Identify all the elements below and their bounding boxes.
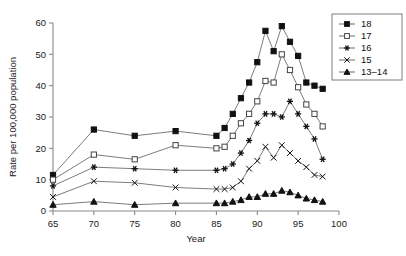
marker-open-square (230, 133, 235, 138)
legend-item-label: 17 (361, 30, 372, 41)
marker-open-square (238, 121, 243, 126)
legend-item-label: 16 (361, 42, 372, 53)
marker-filled-square (279, 24, 284, 29)
line-chart: 010203040506065707580859095100YearRate p… (0, 0, 406, 256)
marker-open-square (173, 143, 178, 148)
marker-filled-square (230, 111, 235, 116)
x-axis-tick-label: 90 (252, 218, 263, 229)
marker-open-square (304, 102, 309, 107)
marker-filled-square (255, 60, 260, 65)
y-axis-tick-label: 0 (41, 205, 46, 216)
legend: 1817161513–14 (332, 14, 402, 80)
chart-container: 010203040506065707580859095100YearRate p… (0, 0, 406, 256)
marker-x (295, 158, 301, 164)
marker-open-square (255, 99, 260, 104)
legend-item-label: 18 (361, 18, 372, 29)
marker-filled-triangle (295, 192, 301, 198)
marker-filled-square (287, 39, 292, 44)
marker-filled-square (132, 133, 137, 138)
marker-filled-triangle (279, 187, 285, 193)
marker-x (263, 144, 269, 150)
marker-open-square (312, 111, 317, 116)
legend-item-label: 15 (361, 54, 372, 65)
marker-open-square (287, 67, 292, 72)
marker-x (279, 142, 285, 148)
y-axis-tick-label: 60 (35, 17, 46, 28)
marker-filled-square (320, 86, 325, 91)
marker-open-square (222, 144, 227, 149)
marker-filled-triangle (238, 197, 244, 203)
marker-x (287, 150, 293, 156)
y-axis-tick-label: 10 (35, 174, 46, 185)
marker-x (254, 158, 260, 164)
y-axis-tick-label: 20 (35, 143, 46, 154)
marker-x (246, 166, 252, 172)
marker-open-square (132, 157, 137, 162)
y-axis-tick-label: 50 (35, 49, 46, 60)
series-16 (50, 99, 326, 189)
marker-open-square (320, 124, 325, 129)
marker-filled-square (91, 127, 96, 132)
marker-filled-triangle (91, 198, 97, 204)
marker-filled-square (312, 83, 317, 88)
marker-filled-square (238, 96, 243, 101)
marker-x (238, 178, 244, 184)
marker-filled-triangle (303, 195, 309, 201)
marker-open-square (247, 111, 252, 116)
marker-open-square (263, 78, 268, 83)
y-axis-tick-label: 40 (35, 80, 46, 91)
marker-x (303, 164, 309, 170)
marker-filled-square (173, 129, 178, 134)
x-axis-tick-label: 75 (129, 218, 140, 229)
series-13-14 (50, 187, 326, 207)
marker-filled-square (345, 22, 350, 27)
x-axis-tick-label: 65 (48, 218, 59, 229)
marker-filled-square (247, 80, 252, 85)
marker-filled-square (271, 49, 276, 54)
x-axis-tick-label: 95 (293, 218, 304, 229)
marker-open-square (279, 52, 284, 57)
marker-open-square (296, 85, 301, 90)
legend-item-label: 13–14 (361, 66, 387, 77)
marker-open-square (271, 80, 276, 85)
marker-filled-square (296, 53, 301, 58)
x-axis-tick-label: 70 (89, 218, 100, 229)
marker-x (271, 155, 277, 161)
x-axis-tick-label: 85 (211, 218, 222, 229)
marker-filled-square (304, 80, 309, 85)
x-axis-title: Year (186, 233, 205, 244)
marker-open-square (91, 152, 96, 157)
x-axis-tick-label: 100 (331, 218, 347, 229)
marker-filled-square (263, 28, 268, 33)
marker-open-square (214, 146, 219, 151)
marker-filled-square (222, 125, 227, 130)
x-axis-tick-label: 80 (170, 218, 181, 229)
marker-filled-square (214, 133, 219, 138)
y-axis-title: Rate per 100,000 population (7, 57, 18, 177)
marker-open-square (345, 34, 350, 39)
y-axis-tick-label: 30 (35, 111, 46, 122)
series-line (53, 101, 323, 186)
marker-open-square (50, 177, 55, 182)
